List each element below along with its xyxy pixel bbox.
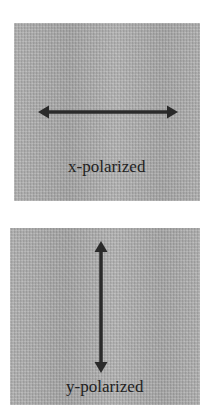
vertical-double-arrow-icon xyxy=(93,239,109,375)
x-polarized-label: x-polarized xyxy=(68,158,145,175)
y-polarized-label: y-polarized xyxy=(66,378,143,395)
horizontal-double-arrow-icon xyxy=(36,104,180,120)
